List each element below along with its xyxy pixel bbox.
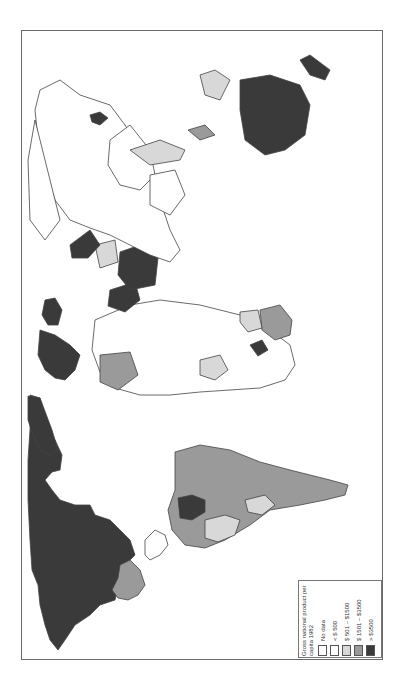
legend-label: No data — [320, 620, 326, 641]
legend-item-lt-500: < $ 500 — [330, 584, 339, 656]
swatch-501-1500 — [342, 645, 351, 656]
legend-label: < $ 500 — [332, 621, 338, 641]
new-zealand — [300, 55, 330, 80]
swatch-no-data — [318, 645, 327, 656]
legend-item-501-1500: $ 501 – $1500 — [342, 584, 351, 656]
swatch-gt-3500 — [366, 645, 375, 656]
legend-label: $ 501 – $1500 — [344, 603, 350, 641]
legend-item-no-data: No data — [318, 584, 327, 656]
swatch-1501-3500 — [354, 645, 363, 656]
europe — [38, 330, 80, 380]
legend-title: Gross national product per capita 1982 — [301, 584, 315, 656]
australia — [240, 75, 310, 155]
legend-label: $ 1501 – $3500 — [356, 599, 362, 641]
swatch-lt-500 — [330, 645, 339, 656]
philippines — [200, 70, 230, 100]
legend-content: Gross national product per capita 1982 N… — [299, 581, 382, 658]
scandinavia — [42, 298, 62, 325]
asia — [35, 80, 180, 262]
central-america — [145, 530, 168, 560]
peru-bolivia — [205, 515, 240, 542]
legend-label: > $3500 — [368, 619, 374, 641]
legend-item-gt-3500: > $3500 — [366, 584, 375, 656]
malaysia — [188, 125, 215, 140]
legend-item-1501-3500: $ 1501 – $3500 — [354, 584, 363, 656]
legend: Gross national product per capita 1982 N… — [298, 580, 382, 658]
world-map — [0, 0, 406, 681]
gulf-states — [70, 230, 100, 258]
